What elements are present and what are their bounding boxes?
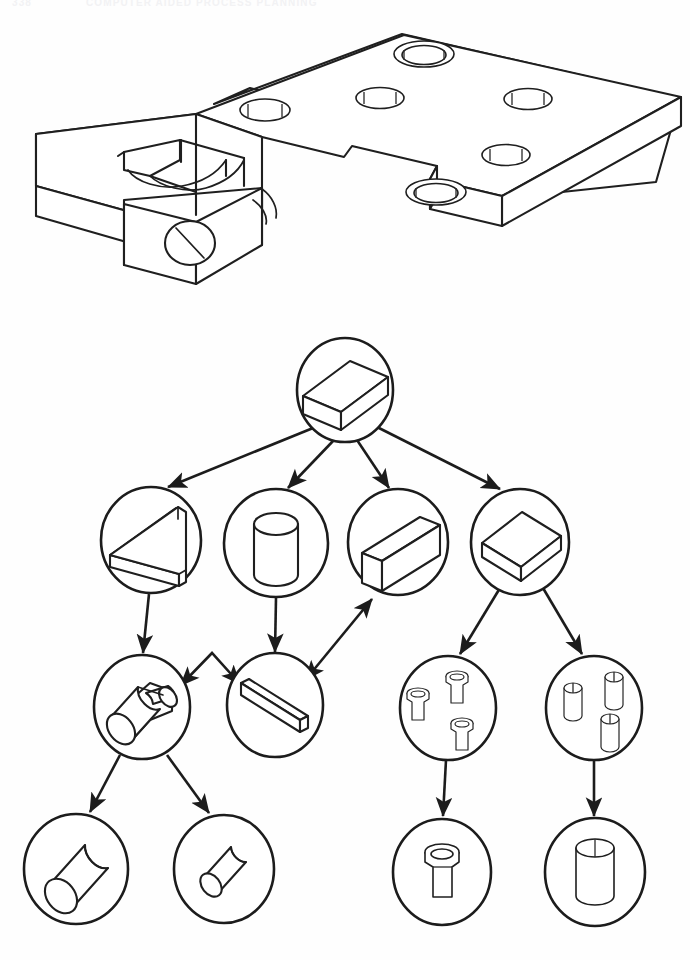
figure-page: 338 COMPUTER AIDED PROCESS PLANNING [0, 0, 690, 960]
tree-node-three-plain-holes[interactable] [546, 656, 642, 760]
plain-hole-icon-a [564, 683, 582, 721]
tree-node-cylinder[interactable] [224, 489, 328, 597]
tree-node-thin-slab[interactable] [101, 487, 201, 593]
tree-node-raw-stock-block[interactable] [297, 338, 393, 442]
edge-stepcyl-to-bigcyl [90, 755, 120, 812]
edge-plate-to-counterbores [460, 588, 500, 654]
feature-decomposition-tree [0, 0, 690, 960]
tree-node-small-cylinder[interactable] [174, 815, 274, 923]
tree-node-three-counterbored-holes[interactable] [400, 656, 496, 760]
edge-root-to-cylinder [288, 440, 334, 488]
edge-slab-to-stepcyl [143, 594, 149, 653]
edge-plate-to-plainholes [543, 588, 582, 654]
edge-stepcyl-slab2-bidirectional [182, 653, 240, 684]
plain-hole-icon-c [601, 714, 619, 752]
tree-edges [90, 426, 594, 816]
edge-stepcyl-to-smallcyl [167, 755, 209, 813]
tree-node-rectangular-bar[interactable] [348, 489, 448, 595]
edge-root-to-plate [375, 426, 500, 489]
tree-node-stepped-cylinder[interactable] [94, 655, 190, 759]
edge-cylinder-to-slab2 [275, 598, 276, 652]
edge-root-to-bar [357, 440, 389, 488]
tree-node-plain-hole[interactable] [545, 818, 645, 926]
tree-node-flat-plate[interactable] [471, 489, 569, 595]
plain-hole-icon-b [605, 672, 623, 710]
edge-root-to-slab [168, 426, 318, 487]
tree-node-thin-slab-2[interactable] [227, 653, 323, 757]
tree-node-counterbored-hole[interactable] [393, 819, 491, 925]
edge-slab2-bar-bidirectional [307, 599, 372, 678]
tree-node-large-cylinder[interactable] [24, 814, 128, 924]
edge-counterbores-to-counterbore [443, 760, 446, 816]
